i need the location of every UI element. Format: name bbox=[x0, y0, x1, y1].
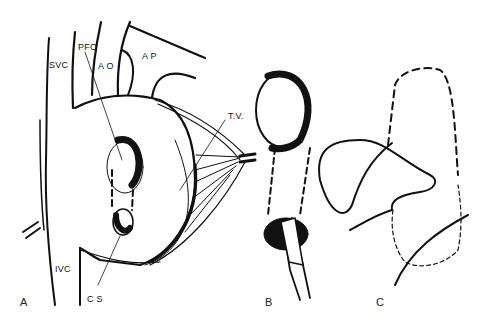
panel-label-b: B bbox=[265, 296, 272, 308]
label-ivc: IVC bbox=[55, 264, 71, 274]
label-ap: A P bbox=[142, 51, 157, 61]
diagram-drawing bbox=[0, 0, 491, 331]
label-ao: A O bbox=[98, 61, 114, 71]
label-tv: T.V. bbox=[228, 111, 243, 121]
label-pfo: PFO bbox=[78, 42, 97, 52]
panel-label-c: C bbox=[376, 296, 384, 308]
panel-label-a: A bbox=[20, 296, 27, 308]
surgical-diagram: SVC PFO A O A P T.V. IVC C S A B C bbox=[0, 0, 491, 331]
label-svc: SVC bbox=[49, 60, 68, 70]
label-cs: C S bbox=[87, 294, 103, 304]
